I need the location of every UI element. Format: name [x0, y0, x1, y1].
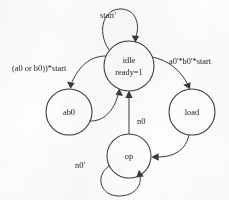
transition-label-idle-to-load: a0'*b0'*start: [169, 57, 212, 66]
fsm-svg: idle ready=1 ab0 load op start' (a0 or b…: [0, 0, 229, 200]
transition-load-to-op: [151, 135, 189, 161]
transition-op-self-loop: [101, 166, 144, 196]
transition-idle-to-ab0: [67, 56, 106, 89]
transition-op-self-loop-path: [101, 166, 140, 196]
state-node-ab0[interactable]: ab0: [46, 89, 92, 135]
transition-ab0-to-idle-path: [89, 95, 118, 121]
state-node-ab0-label: ab0: [63, 108, 75, 117]
transition-load-to-op-arrowhead: [151, 153, 158, 160]
transition-load-to-op-path: [158, 135, 189, 157]
state-node-op-label: op: [125, 152, 133, 161]
transition-idle-to-ab0-path: [72, 56, 106, 82]
transition-label-idle-self-loop: start': [100, 11, 116, 20]
state-node-idle-circle[interactable]: [104, 41, 154, 91]
state-node-load[interactable]: load: [169, 89, 215, 135]
transition-label-op-self-loop: n0': [75, 161, 85, 170]
state-node-idle[interactable]: idle ready=1: [104, 41, 154, 91]
transition-label-idle-to-ab0: (a0 or b0))*start: [12, 64, 67, 73]
state-node-load-label: load: [185, 108, 200, 117]
state-node-op[interactable]: op: [107, 134, 151, 178]
state-diagram-canvas: idle ready=1 ab0 load op start' (a0 or b…: [0, 0, 229, 200]
transition-ab0-to-idle: [89, 89, 123, 121]
state-node-idle-label: idle: [123, 56, 136, 65]
transition-label-op-to-idle: n0: [137, 117, 145, 126]
state-node-idle-sublabel: ready=1: [115, 68, 143, 77]
transition-op-to-idle-arrowhead: [125, 91, 132, 99]
transition-idle-to-ab0-arrowhead: [67, 82, 75, 89]
transition-op-to-idle: [125, 91, 132, 135]
transition-idle-to-load-arrowhead: [183, 82, 190, 89]
